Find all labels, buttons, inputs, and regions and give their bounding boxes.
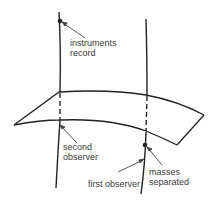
label-first-observer: first observer: [88, 179, 140, 189]
label-observer: observer: [63, 152, 98, 162]
second-observer-worldline: [56, 12, 60, 188]
event-instruments-record: [58, 19, 63, 24]
label-separated: separated: [149, 177, 189, 187]
label-record: record: [70, 48, 96, 58]
spacelike-surface: [14, 91, 204, 145]
label-masses: masses: [149, 167, 181, 177]
label-second: second: [63, 142, 92, 152]
spacetime-diagram: instruments record second observer first…: [0, 0, 215, 206]
first-observer-worldline: [141, 19, 147, 194]
label-instruments: instruments: [70, 38, 117, 48]
